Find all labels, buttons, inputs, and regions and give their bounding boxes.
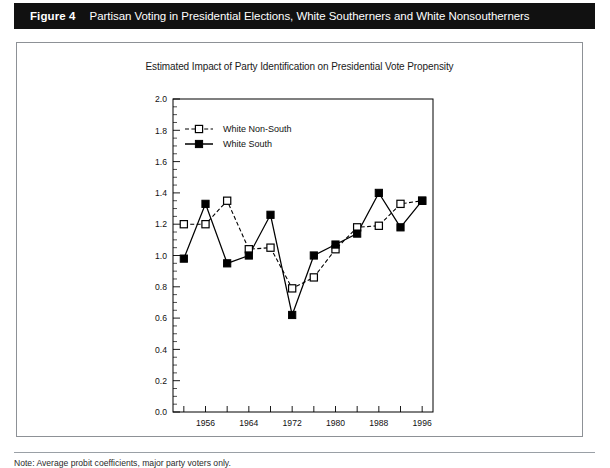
data-point: [224, 260, 231, 267]
legend-label: White South: [223, 139, 272, 149]
x-tick-label: 1956: [196, 418, 215, 428]
data-point: [289, 311, 296, 318]
y-tick-label: 1.4: [155, 188, 167, 198]
data-point: [332, 241, 339, 248]
y-axis-group: 0.00.20.40.60.81.01.21.41.61.82.0: [155, 94, 180, 417]
legend-label: White Non-South: [223, 124, 292, 134]
data-point: [267, 244, 274, 251]
data-point: [289, 285, 296, 292]
data-point: [202, 200, 209, 207]
data-point: [397, 200, 404, 207]
data-point: [354, 230, 361, 237]
data-point: [224, 197, 231, 204]
x-axis-group: 195619641972198019881996: [184, 406, 432, 428]
y-tick-label: 1.8: [155, 126, 167, 136]
data-point: [375, 222, 382, 229]
data-point: [180, 255, 187, 262]
data-point: [180, 221, 187, 228]
y-tick-label: 0.2: [155, 376, 167, 386]
x-tick-label: 1980: [326, 418, 345, 428]
note-divider: [14, 452, 595, 453]
figure-panel: Estimated Impact of Party Identification…: [16, 42, 583, 437]
x-tick-label: 1972: [283, 418, 302, 428]
y-tick-label: 0.6: [155, 313, 167, 323]
plot-area-frame: [173, 99, 433, 412]
data-point: [397, 224, 404, 231]
data-point: [245, 252, 252, 259]
series-line-white-south: [184, 193, 422, 315]
chart-title: Estimated Impact of Party Identification…: [17, 61, 582, 72]
data-point: [310, 252, 317, 259]
figure-label: Figure 4: [30, 10, 76, 22]
y-tick-label: 0.8: [155, 282, 167, 292]
data-point: [310, 274, 317, 281]
legend-marker-white-south: [195, 140, 202, 147]
legend-marker-white-non-south: [195, 125, 202, 132]
y-tick-label: 2.0: [155, 94, 167, 104]
y-tick-label: 0.4: [155, 345, 167, 355]
series-lines: [184, 193, 422, 315]
x-tick-label: 1964: [239, 418, 258, 428]
figure-title: Partisan Voting in Presidential Election…: [90, 10, 530, 22]
x-tick-label: 1988: [369, 418, 388, 428]
y-tick-label: 1.6: [155, 157, 167, 167]
x-tick-label: 1996: [413, 418, 432, 428]
y-tick-label: 1.0: [155, 251, 167, 261]
data-point: [375, 189, 382, 196]
line-chart: 0.00.20.40.60.81.01.21.41.61.82.0 195619…: [17, 81, 584, 431]
data-point: [202, 221, 209, 228]
data-point: [267, 211, 274, 218]
y-tick-label: 1.2: [155, 219, 167, 229]
chart-legend: White Non-SouthWhite South: [185, 124, 292, 149]
figure-note: Note: Average probit coefficients, major…: [14, 458, 595, 468]
y-tick-label: 0.0: [155, 407, 167, 417]
data-point: [419, 197, 426, 204]
figure-header-bar: Figure 4 Partisan Voting in Presidential…: [14, 3, 595, 29]
series-line-white-non-south: [184, 201, 422, 289]
